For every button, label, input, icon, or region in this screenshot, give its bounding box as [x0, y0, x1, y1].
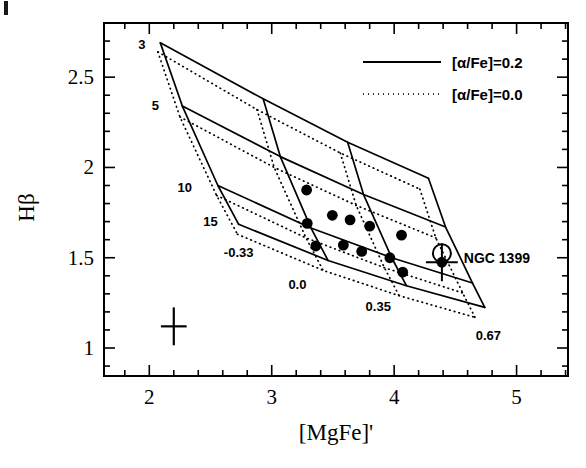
galaxy-point — [338, 240, 349, 251]
galaxy-point — [364, 221, 375, 232]
x-tick-label: 5 — [511, 385, 522, 409]
galaxy-point — [310, 241, 321, 252]
galaxy-point — [396, 230, 407, 241]
dotted-isoage — [237, 234, 475, 317]
x-axis-tick-labels: 2345 — [144, 385, 522, 409]
ngc1399-label: NGC 1399 — [464, 250, 530, 266]
y-axis-tick-labels: 11.522.5 — [68, 65, 94, 360]
solid-isometal — [428, 178, 484, 307]
x-axis-label: [MgFe]' — [299, 420, 373, 445]
y-tick-label: 1 — [84, 336, 95, 360]
x-tick-label: 3 — [266, 385, 277, 409]
galaxy-point — [301, 185, 312, 196]
x-tick-label: 4 — [389, 385, 400, 409]
typical-error-cross — [161, 307, 187, 345]
legend-label: [α/Fe]=0.0 — [452, 86, 523, 103]
age-label: 5 — [152, 98, 159, 113]
solid-isoage — [239, 224, 485, 307]
galaxy-point — [397, 267, 408, 278]
galaxy-point — [356, 246, 367, 257]
x-axis-ticks — [125, 23, 566, 376]
metallicity-label: 0.67 — [476, 328, 501, 343]
ngc-1399-marker: NGC 1399 — [426, 243, 530, 281]
x-tick-label: 2 — [144, 385, 155, 409]
age-label: 3 — [138, 37, 145, 52]
figure-root: 2345 11.522.5 351015 -0.330.00.350.67 NG… — [0, 0, 586, 468]
galaxy-point — [327, 210, 338, 221]
age-label: 15 — [203, 214, 217, 229]
y-tick-label: 2 — [84, 155, 95, 179]
age-labels: 351015 — [138, 37, 217, 229]
solid-isometal — [160, 43, 238, 224]
y-tick-label: 2.5 — [68, 65, 94, 89]
hbeta-mgfe-scatter-plot: 2345 11.522.5 351015 -0.330.00.350.67 NG… — [0, 0, 586, 468]
model-grid-alpha-0.2 — [160, 43, 484, 308]
metallicity-label: -0.33 — [224, 245, 254, 260]
y-axis-label: Hβ — [14, 193, 39, 221]
metallicity-label: 0.0 — [288, 277, 306, 292]
y-tick-label: 1.5 — [68, 246, 94, 270]
galaxy-point — [384, 252, 395, 263]
galaxy-point — [345, 214, 356, 225]
age-label: 10 — [178, 180, 192, 195]
metallicity-label: 0.35 — [366, 299, 391, 314]
solid-isoage — [160, 43, 428, 178]
solid-isometal — [263, 99, 328, 261]
legend-label: [α/Fe]=0.2 — [452, 54, 523, 71]
legend: [α/Fe]=0.2[α/Fe]=0.0 — [363, 54, 523, 103]
galaxy-point — [302, 218, 313, 229]
model-grid-alpha-0.0 — [158, 52, 475, 317]
dotted-isoage — [158, 52, 420, 189]
